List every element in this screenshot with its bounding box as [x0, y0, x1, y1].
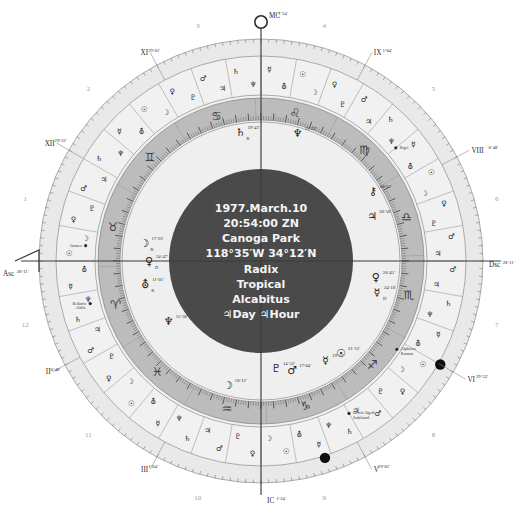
outer-ring-glyph: ♄: [74, 315, 81, 324]
zodiac-sign-capricorn: ♑: [300, 399, 311, 413]
degree-tick: [401, 248, 408, 249]
house-cusp-degree: 1°04′: [382, 48, 392, 53]
chart-info-line-0: 1977.March.10: [215, 202, 308, 215]
zodiac-sign-sagittarius: ♐: [367, 358, 378, 372]
axis-label-asc: Asc28°11′: [3, 269, 29, 278]
fixed-star-name: Romani: [401, 352, 413, 356]
house-number-12: 12: [22, 321, 30, 329]
fixed-star-name: Bellatrix: [73, 302, 87, 306]
outer-ring-glyph: ☿: [117, 127, 122, 136]
house-number-8: 8: [432, 431, 436, 439]
outer-ring-glyph: ☿: [436, 330, 441, 339]
house-cusp-roman: VIII: [471, 147, 484, 155]
outer-ring-glyph: ⛢: [281, 82, 287, 91]
axis-label-dsc: Dsc28°11′: [489, 260, 515, 269]
zodiac-sign-aries: ♈: [110, 298, 121, 312]
outer-ring-glyph: ♂: [448, 232, 455, 241]
house-cusp-roman: IX: [374, 49, 382, 57]
house-number-10: 10: [194, 494, 202, 502]
outer-ring-glyph: ♆: [426, 310, 433, 319]
outer-ring-glyph: ☉: [128, 399, 135, 408]
fixed-star-name: Deneb Algedi: [353, 411, 375, 415]
outer-ring-glyph: ♄: [233, 67, 240, 76]
planet-glyph: ♃: [367, 210, 377, 223]
outer-ring-glyph: ♄: [445, 299, 452, 308]
planet-degree: 08°52′: [380, 184, 392, 189]
chart-info-line-3: 118°35′W 34°12′N: [206, 247, 317, 260]
outer-ring-glyph: ♇: [89, 204, 96, 213]
planet-degree: 17°04′: [299, 363, 311, 368]
outer-ring-glyph: ♆: [176, 414, 183, 423]
house-cusp-degree: 0°48′: [51, 367, 61, 372]
outer-ring-glyph: ☽: [421, 189, 428, 198]
outer-ring-glyph: ☿: [156, 419, 161, 428]
house-number-9: 9: [322, 494, 326, 502]
house-cusp-degree: 29°01′: [378, 464, 390, 469]
degree-tick: [401, 273, 408, 274]
planet-degree: 19°52′: [332, 353, 344, 358]
degree-tick: [248, 114, 249, 121]
chart-info-line-7: ♃Day ♃Hour: [223, 308, 301, 321]
outer-ring-glyph: ☉: [283, 447, 290, 456]
planet-glyph: ☽: [223, 379, 233, 392]
house-number-1: 1: [24, 195, 28, 203]
planet-glyph: ♆: [164, 315, 174, 328]
outer-ring-glyph: ☉: [299, 70, 306, 79]
outer-ring-glyph: ♀: [106, 374, 112, 383]
outer-ring-glyph: ♀: [332, 80, 338, 89]
zodiac-sign-aquarius: ♒: [221, 402, 232, 416]
outer-ring-glyph: ☿: [68, 282, 73, 291]
fixed-star-name: Aldeb.: [76, 306, 87, 310]
outer-ring-glyph: ☽: [82, 234, 89, 243]
house-cusp-roman: VI: [467, 376, 475, 384]
planet-glyph: ☿: [322, 354, 329, 367]
fixed-star-dot: [84, 244, 87, 247]
outer-ring-glyph: ♂: [374, 409, 381, 418]
chart-info-line-1: 20:54:00 ZN: [223, 217, 299, 230]
outer-ring-glyph: ♆: [325, 421, 332, 430]
chart-info-line-2: Canoga Park: [222, 232, 301, 245]
degree-tick: [273, 401, 274, 408]
fixed-star-dot: [394, 146, 397, 149]
chart-info-line-6: Alcabitus: [232, 293, 290, 306]
axis-label-degree: 28°11′: [17, 269, 29, 274]
axis-label-ic: IC1°24′: [267, 496, 286, 505]
outer-ring-glyph: ♃: [365, 117, 372, 126]
outer-ring-glyph: ☽: [398, 365, 405, 374]
outer-ring-glyph: ☉: [420, 360, 427, 369]
outer-ring-glyph: ♂: [200, 74, 207, 83]
fixed-star-name: Sadalsuud: [353, 416, 369, 420]
outer-ring-glyph: ♃: [219, 84, 226, 93]
chart-info-line-4: Radix: [244, 263, 279, 276]
south-node-marker: [320, 453, 330, 463]
outer-ring-glyph: ☉: [428, 168, 435, 177]
house-number-5: 5: [432, 85, 436, 93]
house-cusp-degree: 0°48′: [489, 145, 499, 150]
house-cusp-degree: 29°01′: [148, 48, 160, 53]
house-cusp-degree: 29°33′: [55, 138, 67, 143]
fixed-star-dot: [89, 302, 92, 305]
planet-glyph: ⛢: [141, 278, 149, 291]
outer-ring-glyph: ♃: [433, 280, 440, 289]
house-number-2: 2: [87, 85, 91, 93]
outer-ring-glyph: ♂: [449, 265, 456, 274]
outer-ring-glyph: ♀: [250, 449, 256, 458]
outer-ring-glyph: ♂: [361, 95, 368, 104]
axis-label-mc: MC1°24′: [269, 11, 288, 20]
chart-info-line-5: Tropical: [237, 278, 286, 291]
axis-label-degree: 1°24′: [276, 496, 286, 501]
house-cusp-v: V29°01′: [374, 464, 390, 474]
house-number-7: 7: [495, 321, 499, 329]
planet-degree: 11°01′: [152, 277, 164, 282]
axis-label-text: IC: [267, 497, 274, 505]
house-cusp-xi: XI29°01′: [141, 48, 161, 58]
outer-ring-glyph: ☿: [411, 140, 416, 149]
degree-tick: [248, 401, 249, 408]
zodiac-sign-cancer: ♋: [211, 109, 222, 123]
outer-ring-glyph: ♂: [216, 444, 223, 453]
outer-ring-glyph: ☽: [162, 108, 169, 117]
zodiac-sign-scorpio: ♏: [404, 288, 415, 302]
zodiac-sign-leo: ♌: [290, 106, 301, 120]
fixed-star-dot: [347, 412, 350, 415]
outer-ring-glyph: ♀: [170, 87, 176, 96]
